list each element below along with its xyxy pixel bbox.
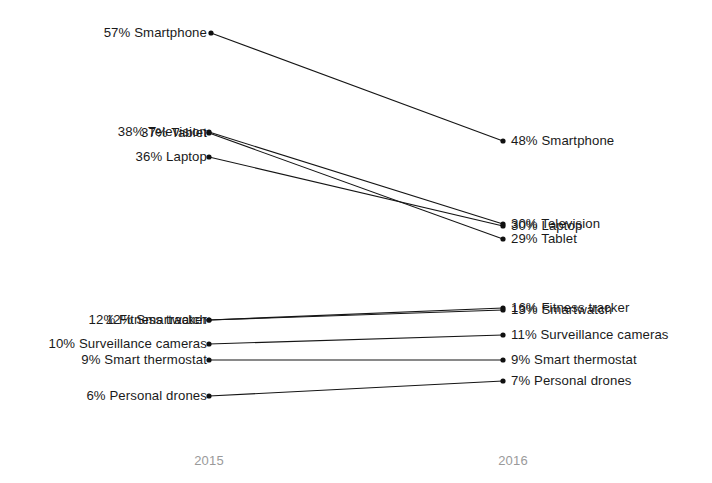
endpoint-dot-personal-drones-2016 [500,378,505,383]
axis-tick-2016: 2016 [498,453,528,468]
left-label-laptop: 36% Laptop [136,150,207,163]
right-label-smartphone: 48% Smartphone [511,134,614,147]
slope-line-surveillance-cameras [209,335,503,344]
slope-line-group-fitness-tracker [206,305,505,322]
left-label-smartwatch: 12% Smartwatch [106,313,207,326]
slope-line-tablet [209,133,503,239]
slope-chart: 57% Smartphone 38% Television 37% Tablet… [0,0,712,483]
slope-line-smartwatch [209,310,503,320]
slope-line-group-television [206,129,505,226]
axis-tick-2015: 2015 [194,453,224,468]
slope-lines-layer [0,0,712,483]
endpoint-dot-tablet-2015 [206,130,211,135]
endpoint-dot-smart-thermostat-2016 [500,357,505,362]
slope-line-group-smartphone [208,30,505,143]
right-label-smart-thermostat: 9% Smart thermostat [511,353,637,366]
endpoint-dot-laptop-2015 [206,154,211,159]
endpoint-dot-smartphone-2016 [500,138,505,143]
endpoint-dot-laptop-2016 [500,223,505,228]
slope-line-group-smart-thermostat [206,357,505,362]
slope-line-group-surveillance-cameras [206,332,505,346]
slope-line-laptop [209,157,503,226]
endpoint-dot-tablet-2016 [500,236,505,241]
endpoint-dot-smartwatch-2016 [500,307,505,312]
endpoint-dot-surveillance-cameras-2016 [500,332,505,337]
endpoint-dot-smartphone-2015 [208,30,213,35]
left-label-personal-drones: 6% Personal drones [86,389,207,402]
right-label-smartwatch: 13% Smartwatch [511,303,612,316]
endpoint-dot-smartwatch-2015 [206,317,211,322]
right-label-personal-drones: 7% Personal drones [511,374,632,387]
slope-line-group-tablet [206,130,505,241]
right-label-tablet: 29% Tablet [511,232,577,245]
slope-line-television [209,132,503,224]
slope-line-smartphone [211,33,503,141]
left-label-smartphone: 57% Smartphone [104,26,207,39]
left-label-tablet: 37% Tablet [141,126,207,139]
slope-line-group-laptop [206,154,505,228]
slope-line-group-personal-drones [206,378,505,398]
left-label-surveillance-cameras: 10% Surveillance cameras [48,337,207,350]
right-label-surveillance-cameras: 11% Surveillance cameras [511,328,669,341]
left-label-smart-thermostat: 9% Smart thermostat [81,353,207,366]
slope-line-personal-drones [209,381,503,396]
